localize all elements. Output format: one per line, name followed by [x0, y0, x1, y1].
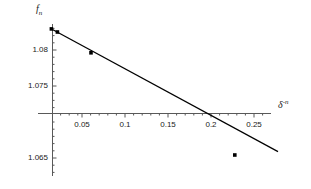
data-point	[233, 153, 237, 157]
y-tick-label-1-075: 1.075	[8, 82, 48, 90]
y-axis-ticks	[53, 28, 57, 172]
y-axis-label: fn	[36, 4, 42, 17]
x-axis-ticks	[61, 114, 263, 118]
x-axis-label: δ-n	[278, 99, 289, 110]
x-tick-label-0-05: 0.05	[66, 121, 98, 129]
x-tick-label-0-2: 0.2	[195, 121, 227, 129]
x-axis-label-exponent: -n	[283, 98, 289, 106]
data-points	[50, 27, 237, 157]
y-axis-label-subscript: n	[39, 9, 43, 17]
y-tick-label-1-065: 1.065	[8, 154, 48, 162]
x-tick-label-0-1: 0.1	[109, 121, 141, 129]
chart-figure: fn δ-n 1.08 1.075 1.065 0.05 0.1 0.15 0.…	[0, 0, 311, 189]
x-tick-label-0-25: 0.25	[238, 121, 270, 129]
x-tick-label-0-15: 0.15	[152, 121, 184, 129]
y-tick-label-1-08: 1.08	[8, 46, 48, 54]
data-point	[50, 27, 54, 31]
data-point	[56, 30, 60, 34]
fit-line	[52, 29, 278, 151]
data-point	[89, 51, 93, 55]
